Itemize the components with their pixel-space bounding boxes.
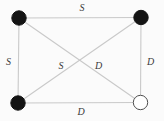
edge-label-top: S (80, 2, 85, 13)
node-bottom-left (11, 96, 25, 110)
edge-label-left: S (6, 56, 11, 67)
graph-canvas: S S S D D D (0, 0, 164, 121)
edge-label-diagonal-tl-br: D (94, 60, 103, 71)
graph-diagram: S S S D D D (0, 0, 164, 121)
edge-label-diagonal-bl-tr: S (59, 60, 64, 71)
node-top-left (12, 11, 26, 25)
node-top-right (134, 10, 148, 24)
edge-label-bottom: D (76, 106, 85, 117)
edge-top (19, 18, 141, 19)
edge-bottom (18, 103, 141, 104)
node-bottom-right (133, 95, 147, 109)
edge-right (141, 18, 142, 103)
edge-label-right: D (146, 56, 155, 67)
